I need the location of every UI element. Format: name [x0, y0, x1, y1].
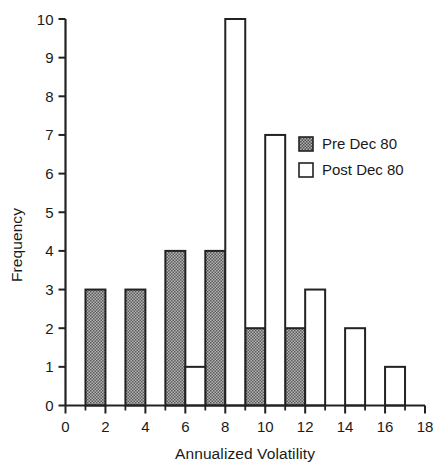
bar	[385, 367, 405, 406]
bar	[285, 328, 305, 405]
x-tick-label: 6	[181, 418, 189, 435]
bar	[205, 251, 225, 406]
y-tick-label: 3	[45, 281, 53, 298]
y-tick-label: 1	[45, 358, 53, 375]
y-tick-label: 2	[45, 320, 53, 337]
y-tick-label: 5	[45, 204, 53, 221]
y-tick-label: 8	[45, 88, 53, 105]
y-tick-label: 6	[45, 165, 53, 182]
bar	[165, 251, 185, 406]
bar	[345, 328, 365, 405]
bar-rect	[385, 367, 405, 406]
x-tick-label: 10	[257, 418, 274, 435]
annualized-volatility-histogram: 012345678910 024681012141618 Annualized …	[0, 0, 441, 471]
y-tick-label: 9	[45, 49, 53, 66]
bar	[185, 367, 205, 406]
bar-rect	[205, 251, 225, 406]
x-tick-label: 14	[337, 418, 354, 435]
bar-rect	[125, 290, 145, 406]
legend-entry-pre-dec-80: Pre Dec 80	[299, 135, 397, 152]
bar-rect	[245, 328, 265, 405]
x-tick-label: 8	[221, 418, 229, 435]
bar-rect	[265, 135, 285, 406]
bar	[225, 19, 245, 406]
x-tick-label: 12	[297, 418, 314, 435]
legend-label-pre-dec-80: Pre Dec 80	[322, 135, 397, 152]
y-tick-label: 10	[37, 11, 54, 28]
y-tick-label: 0	[45, 397, 53, 414]
y-tick-label: 4	[45, 242, 53, 259]
x-axis-title: Annualized Volatility	[175, 445, 315, 462]
bar	[305, 290, 325, 406]
legend-swatch-post-dec-80-icon	[299, 163, 313, 177]
x-tick-label: 16	[377, 418, 394, 435]
x-tick-label: 2	[101, 418, 109, 435]
legend-label-post-dec-80: Post Dec 80	[322, 161, 404, 178]
bar-rect	[225, 19, 245, 406]
bar-rect	[305, 290, 325, 406]
bar-rect	[85, 290, 105, 406]
bar	[85, 290, 105, 406]
bar-rect	[345, 328, 365, 405]
bar-rect	[285, 328, 305, 405]
histogram-figure: 012345678910 024681012141618 Annualized …	[0, 0, 441, 471]
bar	[265, 135, 285, 406]
legend-swatch-pre-dec-80-icon	[299, 137, 313, 151]
y-tick-label: 7	[45, 126, 53, 143]
y-axis-title: Frequency	[8, 208, 25, 282]
bar-rect	[185, 367, 205, 406]
x-tick-label: 18	[417, 418, 434, 435]
bar	[125, 290, 145, 406]
x-tick-label: 4	[141, 418, 149, 435]
bar-rect	[165, 251, 185, 406]
x-tick-label: 0	[61, 418, 69, 435]
bar	[245, 328, 265, 405]
